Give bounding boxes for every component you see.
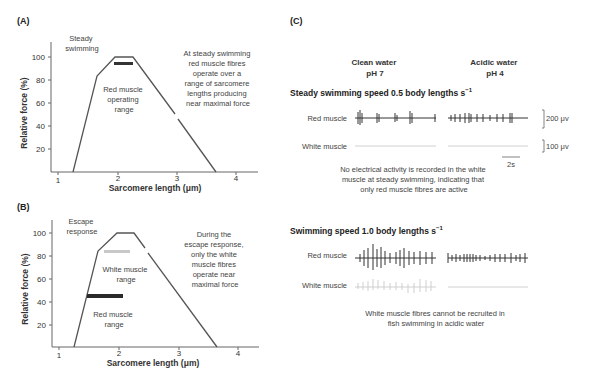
column-clean-water: Clean water pH 7 [351,58,398,78]
x-axis-label: Sarcomere length (μm) [107,358,200,368]
ytick-100: 100 [33,229,47,238]
panel-c-label: (C) [290,16,303,26]
ytick-40: 40 [37,298,46,307]
xtick-1: 1 [56,176,61,185]
row-label-red: Red muscle [307,114,347,123]
panel-a-label: (A) [17,16,30,26]
annotation: During the escape response, only the whi… [184,230,245,289]
trace-red-acidic-steady [448,113,528,123]
y-axis-label: Relative force (%) [20,253,30,324]
section2-title: Swimming speed 1.0 body lengths s−1 [290,225,443,236]
length-tension-curve [73,57,175,172]
ytick-100: 100 [32,53,46,62]
red-range-label: Red muscle range [93,310,135,329]
red-muscle-range-bar [114,62,133,65]
row-label-red: Red muscle [307,251,347,260]
corner-note: Steady swimming [65,34,98,53]
trace-red-clean-steady [355,110,436,125]
length-tension-curve-tail [178,119,216,172]
panel-b: (B) 100 80 60 40 20 1 2 3 4 Sarcomere le… [17,202,259,368]
ytick-20: 20 [37,321,46,330]
panel-b-label: (B) [17,202,30,212]
row-label-white: White muscle [302,142,347,151]
column-acidic-water: Acidic water pH 4 [470,58,519,78]
figure: (A) 100 80 60 40 20 1 2 3 4 Sarcomere le… [0,0,591,382]
scale-bar-200uv [542,110,544,128]
range-label: Red muscle operating range [103,85,145,114]
xtick-1: 1 [57,351,62,360]
ytick-40: 40 [36,122,45,131]
ytick-80: 80 [37,252,46,261]
xtick-4: 4 [234,174,239,183]
panel-c: (C) Clean water pH 7 Acidic water pH 4 S… [290,16,569,328]
row-label-white: White muscle [302,281,347,290]
annotation: At steady swimming red muscle fibres ope… [184,49,253,108]
ytick-60: 60 [37,275,46,284]
scale-white-label: 100 μv [546,142,569,151]
xtick-2: 2 [116,174,121,183]
section1-title: Steady swimming speed 0.5 body lengths s… [290,87,473,98]
red-muscle-range-bar [87,294,123,298]
xtick-3: 3 [177,349,182,358]
white-muscle-range-bar [104,250,130,253]
trace-red-acidic-fast [448,253,528,263]
scale-time-label: 2s [507,160,515,169]
ytick-60: 60 [36,99,45,108]
ytick-80: 80 [36,76,45,85]
note-steady: No electrical activity is recorded in th… [340,165,488,194]
x-axis-label: Sarcomere length (μm) [109,183,202,193]
trace-red-clean-fast [355,244,436,270]
white-range-label: White muscle range [102,265,149,284]
scale-bar-100uv [542,140,544,152]
xtick-2: 2 [117,349,122,358]
y-axis-label: Relative force (%) [19,77,29,148]
panel-a: (A) 100 80 60 40 20 1 2 3 4 Sarcomere le… [17,16,258,193]
xtick-4: 4 [236,349,241,358]
trace-white-clean-fast [355,279,436,293]
note-fast: White muscle fibres cannot be recruited … [365,309,507,328]
corner-note: Escape response [67,217,98,236]
ytick-20: 20 [36,145,45,154]
xtick-3: 3 [175,174,180,183]
scale-red-label: 200 μv [546,114,569,123]
